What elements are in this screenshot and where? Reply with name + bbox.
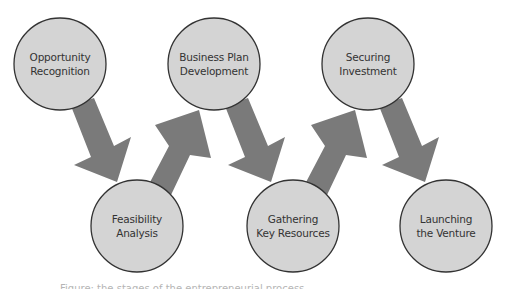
arrow-down-2 bbox=[225, 98, 285, 182]
label-line-1: Launching bbox=[400, 212, 492, 226]
label-line-2: Key Resources bbox=[247, 226, 339, 240]
label-line-1: Securing bbox=[322, 50, 414, 64]
label-line-2: Development bbox=[168, 64, 260, 78]
label-line-1: Feasibility bbox=[91, 212, 183, 226]
label-launching-the-venture: Launching the Venture bbox=[400, 212, 492, 240]
process-diagram bbox=[0, 0, 505, 289]
label-business-plan-development: Business Plan Development bbox=[168, 50, 260, 78]
label-line-2: Recognition bbox=[14, 64, 106, 78]
label-feasibility-analysis: Feasibility Analysis bbox=[91, 212, 183, 240]
label-line-2: Investment bbox=[322, 64, 414, 78]
label-line-2: the Venture bbox=[400, 226, 492, 240]
label-line-2: Analysis bbox=[91, 226, 183, 240]
label-line-1: Gathering bbox=[247, 212, 339, 226]
label-opportunity-recognition: Opportunity Recognition bbox=[14, 50, 106, 78]
label-gathering-key-resources: Gathering Key Resources bbox=[247, 212, 339, 240]
arrow-up-2 bbox=[304, 110, 367, 195]
label-line-1: Business Plan bbox=[168, 50, 260, 64]
arrow-down-1 bbox=[71, 98, 131, 182]
label-securing-investment: Securing Investment bbox=[322, 50, 414, 78]
figure-caption: Figure: the stages of the entrepreneuria… bbox=[60, 283, 360, 289]
label-line-1: Opportunity bbox=[14, 50, 106, 64]
arrow-up-1 bbox=[148, 110, 211, 195]
arrow-down-3 bbox=[379, 98, 439, 182]
